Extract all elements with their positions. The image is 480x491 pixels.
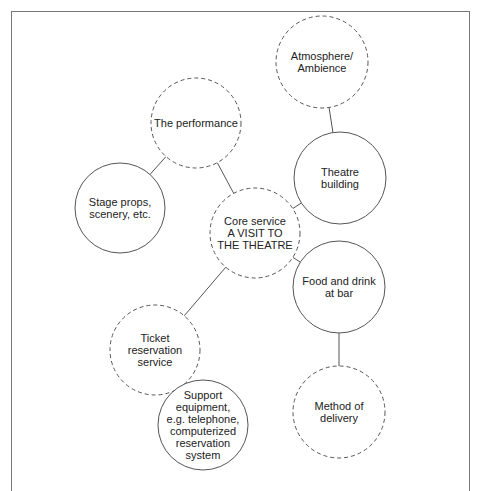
node-label-support: Support equipment, e.g. telephone, compu… (158, 380, 248, 470)
node-label-theatre_building: Theatre building (294, 132, 386, 224)
node-label-method: Method of delivery (293, 366, 385, 458)
edge-atmosphere-theatre_building (329, 107, 333, 132)
node-label-food: Food and drink at bar (293, 241, 385, 333)
node-label-stage_props: Stage props, scenery, etc. (75, 163, 165, 253)
node-label-atmosphere: Atmosphere/ Ambience (276, 16, 368, 108)
node-label-core: Core service A VISIT TO THE THEATRE (210, 188, 300, 278)
node-label-performance: The performance (151, 78, 241, 168)
